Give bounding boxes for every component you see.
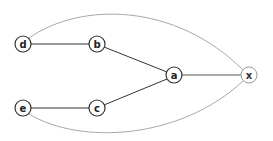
node-label-e: e bbox=[20, 103, 27, 114]
edge-e-x bbox=[29, 81, 243, 133]
edge-b-a bbox=[104, 47, 167, 72]
node-label-a: a bbox=[171, 70, 178, 81]
node-c[interactable]: c bbox=[89, 100, 105, 116]
node-label-d: d bbox=[19, 39, 26, 50]
node-a[interactable]: a bbox=[166, 67, 182, 83]
edge-d-x bbox=[29, 14, 243, 70]
node-x[interactable]: x bbox=[241, 67, 257, 83]
node-b[interactable]: b bbox=[89, 36, 105, 52]
node-label-b: b bbox=[93, 39, 100, 50]
node-e[interactable]: e bbox=[15, 100, 31, 116]
edge-c-a bbox=[104, 79, 167, 105]
node-d[interactable]: d bbox=[15, 36, 31, 52]
graph-diagram: d b a x e c bbox=[0, 0, 273, 141]
node-label-c: c bbox=[94, 103, 100, 114]
node-label-x: x bbox=[246, 70, 253, 81]
